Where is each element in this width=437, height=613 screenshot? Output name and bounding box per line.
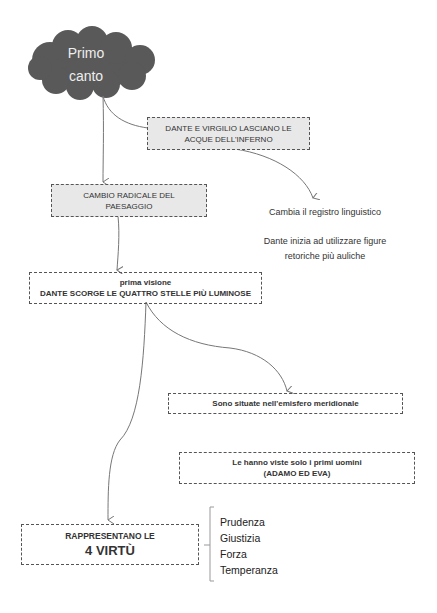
node-lasciano: DANTE E VIRGILIO LASCIANO LE ACQUE DELL'…	[147, 117, 310, 150]
root-title-line2: canto	[46, 65, 126, 88]
connector-lines	[0, 0, 437, 613]
virtue-giustizia: Giustizia	[220, 530, 278, 546]
node-quattro-virtu: RAPPRESENTANO LE 4 VIRTÙ	[21, 524, 199, 565]
concept-map: Primo canto DANTE E VIRGILIO LASCIANO LE…	[0, 0, 437, 613]
virtue-temperanza: Temperanza	[220, 562, 278, 578]
node-primi-uomini: Le hanno viste solo i primi uomini (ADAM…	[179, 452, 415, 484]
node-cambio-line1: CAMBIO RADICALE DEL	[83, 190, 175, 201]
visione-line1: prima visione	[120, 277, 172, 288]
virtu-line2: 4 VIRTÙ	[85, 542, 135, 559]
virtue-list: Prudenza Giustizia Forza Temperanza	[220, 514, 278, 578]
root-node-primo-canto: Primo canto	[46, 42, 126, 88]
node-lasciano-line1: DANTE E VIRGILIO LASCIANO LE	[165, 123, 291, 134]
text-registro: Cambia il registro linguistico	[240, 205, 410, 220]
figure-line1: Dante inizia ad utilizzare figure	[230, 234, 420, 249]
virtue-prudenza: Prudenza	[220, 514, 278, 530]
virtue-forza: Forza	[220, 546, 278, 562]
root-title-line1: Primo	[46, 42, 126, 65]
node-lasciano-line2: ACQUE DELL'INFERNO	[184, 134, 272, 145]
text-figure-retoriche: Dante inizia ad utilizzare figure retori…	[230, 234, 420, 264]
node-cambio-line2: PAESAGGIO	[106, 201, 153, 212]
uomini-line2: (ADAMO ED EVA)	[264, 468, 331, 479]
node-emisfero: Sono situate nell'emisfero meridionale	[168, 393, 403, 414]
virtu-line1: RAPPRESENTANO LE	[65, 531, 155, 542]
emisfero-text: Sono situate nell'emisfero meridionale	[212, 398, 358, 409]
visione-line2: DANTE SCORGE LE QUATTRO STELLE PIÙ LUMIN…	[40, 288, 251, 299]
figure-line2: retoriche più auliche	[230, 249, 420, 264]
node-cambio-paesaggio: CAMBIO RADICALE DEL PAESAGGIO	[51, 184, 207, 217]
node-prima-visione: prima visione DANTE SCORGE LE QUATTRO ST…	[29, 272, 262, 304]
uomini-line1: Le hanno viste solo i primi uomini	[232, 457, 361, 468]
registro-text: Cambia il registro linguistico	[269, 207, 381, 217]
